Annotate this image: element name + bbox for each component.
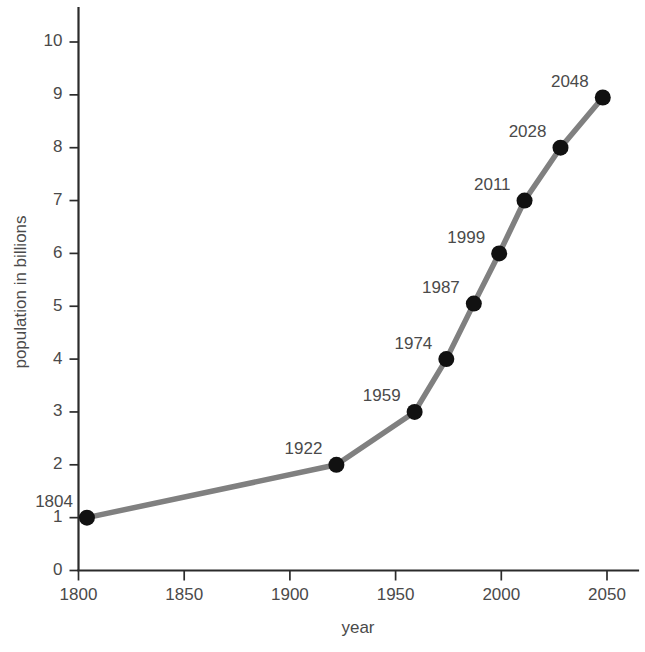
data-point-label: 2011: [474, 175, 511, 194]
data-point-marker: [466, 296, 482, 312]
data-point-marker: [491, 245, 507, 261]
data-point-label: 1959: [363, 386, 401, 405]
x-axis-tick-labels: 180018501900195020002050: [60, 585, 626, 604]
x-tick-label: 2000: [482, 585, 520, 604]
data-point-label: 1974: [395, 334, 433, 353]
y-tick-label: 3: [53, 401, 62, 420]
y-tick-label: 9: [53, 84, 62, 103]
x-tick-label: 1850: [165, 585, 203, 604]
y-axis-title: population in billions: [11, 215, 30, 368]
data-point-label: 2028: [509, 122, 547, 141]
chart-canvas: 012345678910 180018501900195020002050 18…: [0, 0, 645, 652]
x-tick-label: 1950: [377, 585, 415, 604]
data-point-marker: [438, 351, 454, 367]
x-tick-label: 1900: [271, 585, 309, 604]
y-tick-label: 8: [53, 137, 62, 156]
y-tick-label: 2: [53, 454, 62, 473]
data-point-label: 1922: [285, 439, 323, 458]
x-axis-title: year: [341, 618, 374, 637]
population-growth-chart: 012345678910 180018501900195020002050 18…: [0, 0, 645, 652]
y-tick-label: 7: [53, 190, 62, 209]
data-point-marker: [552, 140, 568, 156]
data-point-marker: [595, 89, 611, 105]
x-tick-label: 1800: [60, 585, 98, 604]
data-point-marker: [517, 193, 533, 209]
y-tick-label: 10: [44, 31, 63, 50]
series-line-world-population: [87, 97, 603, 517]
data-point-marker: [328, 457, 344, 473]
data-series: [79, 89, 611, 525]
data-point-labels: 180419221959197419871999201120282048: [35, 72, 589, 511]
data-point-marker: [79, 510, 95, 526]
data-point-label: 1804: [35, 492, 73, 511]
x-axis-ticks: [79, 571, 608, 581]
data-point-label: 2048: [551, 72, 589, 91]
y-tick-label: 0: [53, 560, 62, 579]
x-axis: 180018501900195020002050: [60, 571, 638, 604]
y-tick-label: 6: [53, 243, 62, 262]
y-tick-label: 4: [53, 349, 62, 368]
y-tick-label: 5: [53, 296, 62, 315]
data-point-marker: [407, 404, 423, 420]
data-point-label: 1987: [422, 278, 460, 297]
x-tick-label: 2050: [588, 585, 626, 604]
data-point-label: 1999: [447, 228, 485, 247]
